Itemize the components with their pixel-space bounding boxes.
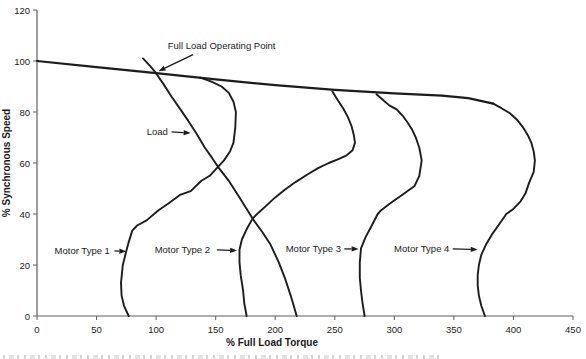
annotation-label-load: Load: [147, 126, 168, 137]
x-tick-label: 350: [446, 324, 462, 335]
x-tick-label: 300: [386, 324, 402, 335]
curve-motor-type-2: [240, 92, 356, 316]
annotation-arrow-line-load: [172, 132, 184, 133]
x-tick-label: 200: [267, 324, 283, 335]
motor-torque-speed-chart: 0204060801001200501001502002503003504004…: [0, 0, 586, 359]
curve-motor-type-3: [360, 94, 422, 316]
curve-speed-line-near-synchronous-branch: [37, 61, 493, 104]
annotation-label-full-load-operating-point: Full Load Operating Point: [168, 40, 276, 51]
curve-load: [143, 58, 297, 316]
x-tick-label: 100: [148, 324, 164, 335]
y-tick-label: 20: [19, 260, 30, 271]
y-tick-label: 0: [25, 311, 30, 322]
clipped-caption-fragment: [3, 355, 443, 359]
x-tick-label: 50: [91, 324, 102, 335]
y-axis-title: % Synchronous Speed: [1, 109, 12, 217]
y-tick-label: 40: [19, 209, 30, 220]
curve-motor-type-4: [478, 104, 535, 316]
y-tick-label: 80: [19, 107, 30, 118]
annotation-label-motor-type-4: Motor Type 4: [394, 243, 449, 254]
x-tick-label: 150: [208, 324, 224, 335]
chart-canvas: 0204060801001200501001502002503003504004…: [0, 0, 586, 359]
annotation-arrowhead-motor-type-3: [352, 246, 359, 251]
curve-motor-type-1: [121, 78, 236, 316]
x-tick-label: 450: [565, 324, 581, 335]
annotation-label-motor-type-1: Motor Type 1: [55, 245, 110, 256]
annotation-arrowhead-motor-type-4: [471, 247, 478, 252]
x-tick-label: 250: [327, 324, 343, 335]
annotation-arrowhead-motor-type-2: [230, 248, 237, 253]
annotation-label-motor-type-3: Motor Type 3: [286, 243, 341, 254]
y-tick-label: 100: [14, 56, 30, 67]
annotation-arrowhead-load: [184, 130, 191, 135]
x-axis-title: % Full Load Torque: [226, 337, 318, 348]
y-tick-label: 60: [19, 158, 30, 169]
annotation-arrowhead-full-load-operating-point: [158, 66, 165, 71]
x-tick-label: 0: [34, 324, 39, 335]
annotation-arrow-line-full-load-operating-point: [165, 55, 193, 69]
x-tick-label: 400: [506, 324, 522, 335]
y-tick-label: 120: [14, 5, 30, 16]
annotation-label-motor-type-2: Motor Type 2: [155, 244, 210, 255]
